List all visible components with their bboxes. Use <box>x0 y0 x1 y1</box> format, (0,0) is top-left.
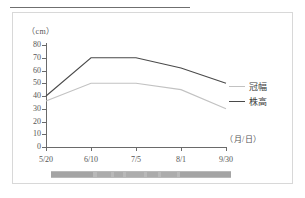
figure-frame: （cm） （月/日） 01020304050607080 5/206/107/5… <box>12 12 293 184</box>
legend-item: 株高 <box>229 94 291 109</box>
chart-plot-area: （cm） （月/日） 01020304050607080 5/206/107/5… <box>13 13 294 185</box>
legend-swatch-icon <box>229 86 245 87</box>
legend-label: 株高 <box>249 95 267 108</box>
top-rule-divider <box>10 7 190 8</box>
legend-swatch-icon <box>229 101 245 102</box>
figure-page: （cm） （月/日） 01020304050607080 5/206/107/5… <box>0 0 305 198</box>
legend-item: 冠幅 <box>229 79 291 94</box>
redacted-caption-bar <box>51 171 231 178</box>
chart-legend: 冠幅株高 <box>229 79 291 109</box>
series-line-zhugao <box>46 83 226 109</box>
legend-label: 冠幅 <box>249 80 267 93</box>
